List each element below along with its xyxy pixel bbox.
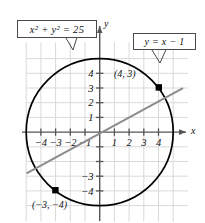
x-axis-arrowhead <box>179 129 186 135</box>
x-axis-label: x <box>191 125 195 136</box>
x-tick-label: 4 <box>156 137 162 148</box>
math-figure-circle-line-intersection: −4 −3 −2 −1 1 2 3 4 4 3 2 1 −3 −4 x² + y… <box>0 0 205 223</box>
x-tick-label: −3 <box>49 137 61 148</box>
point-label-lower-left: (−3, −4) <box>32 199 67 210</box>
y-tick-label: −4 <box>81 186 94 197</box>
y-axis-arrowhead <box>97 26 103 33</box>
callout-circle-equation: x² + y² = 25 <box>17 20 97 38</box>
x-tick-label: 2 <box>126 137 132 148</box>
callout-line-equation: y = x − 1 <box>133 33 196 50</box>
y-tick-label: −3 <box>81 171 93 182</box>
y-axis-label: y <box>104 18 108 29</box>
x-tick-label: −4 <box>35 137 48 148</box>
x-tick-label: 3 <box>140 137 146 148</box>
y-tick-label: 2 <box>88 97 94 108</box>
intersection-point-4-3 <box>156 84 162 90</box>
intersection-point-neg3-neg4 <box>52 187 58 193</box>
point-label-upper-right: (4, 3) <box>114 68 136 79</box>
y-tick-label: 3 <box>87 83 93 94</box>
y-tick-label: 1 <box>88 112 93 123</box>
axes <box>22 26 186 221</box>
x-tick-label: 1 <box>112 137 117 148</box>
y-tick-label: 4 <box>88 68 94 79</box>
line-curve <box>27 88 184 173</box>
